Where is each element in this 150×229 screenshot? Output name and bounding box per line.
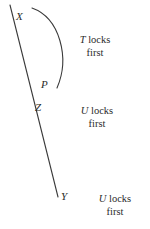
point-label-y: Y [61, 191, 67, 202]
caption-word-first-2: first [70, 117, 124, 130]
arc-x-to-p [32, 8, 63, 88]
diagram-canvas: X P Z Y T locks first U locks first U lo… [0, 0, 150, 229]
caption-word-first-1: first [68, 46, 122, 59]
caption-word-first-3: first [88, 205, 142, 218]
caption-u-locks-first-lower: U locks first [88, 192, 142, 218]
caption-symbol-u-1: U [81, 105, 89, 116]
caption-t-locks-first: T locks first [68, 33, 122, 59]
caption-symbol-u-2: U [99, 193, 107, 204]
caption-word-locks-3: locks [109, 193, 131, 204]
caption-u-locks-first-upper: U locks first [70, 104, 124, 130]
caption-symbol-t: T [80, 34, 86, 45]
point-label-z: Z [35, 102, 41, 113]
point-label-p: P [41, 79, 48, 90]
caption-word-locks-1: locks [88, 34, 110, 45]
caption-word-locks-2: locks [91, 105, 113, 116]
main-timeline-line [10, 5, 58, 197]
point-label-x: X [16, 11, 23, 22]
